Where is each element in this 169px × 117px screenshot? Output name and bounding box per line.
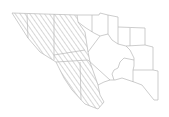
map-container: County map with hatched region xyxy=(0,0,169,117)
county-border xyxy=(126,45,145,46)
county-map xyxy=(0,0,169,117)
county-border xyxy=(88,36,100,52)
county-border xyxy=(133,66,153,70)
county-border xyxy=(112,58,134,80)
hatched-region xyxy=(12,13,104,109)
